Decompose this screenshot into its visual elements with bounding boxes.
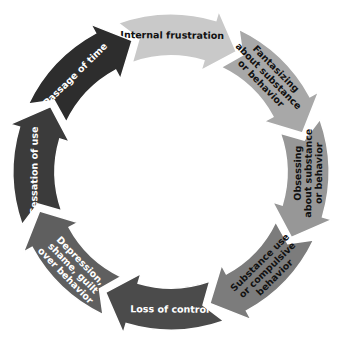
addiction-cycle-diagram: Internal frustrationFantasizingabout sub…	[0, 0, 342, 341]
cycle-segment-cessation-of-use: Cessation of use	[10, 107, 69, 225]
cycle-segment-fantasizing: Fantasizingabout substanceor behavior	[221, 29, 319, 133]
cycle-segment-passage-of-time: Passage of time	[28, 24, 132, 122]
curved-arrow-icon	[10, 107, 69, 225]
cycle-svg: Internal frustrationFantasizingabout sub…	[0, 0, 342, 341]
segment-label: Cessation of use	[28, 127, 40, 215]
segment-label: Internal frustration	[120, 29, 224, 41]
cycle-segment-substance-use: Substance useor compulsivebehavior	[210, 222, 314, 320]
cycle-segment-loss-of-control: Loss of control	[106, 274, 224, 333]
cycle-segment-depression: Depression,shame, guiltover behavior	[23, 211, 121, 315]
cycle-segment-obsessing: Obsessingabout substanceor behavior	[273, 119, 332, 237]
cycle-segment-internal-frustration: Internal frustration	[118, 11, 236, 70]
segment-label: Loss of control	[130, 303, 209, 315]
